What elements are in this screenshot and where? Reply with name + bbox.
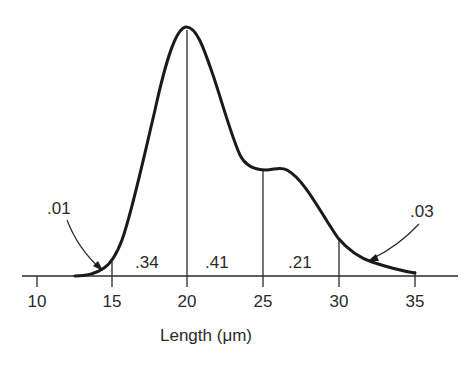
tick-label-30: 30 (319, 293, 359, 310)
x-axis-title: Length (μm) (160, 327, 252, 344)
tick-label-35: 35 (395, 293, 435, 310)
tick-label-20: 20 (167, 293, 207, 310)
tick-label-25: 25 (243, 293, 283, 310)
callout-label-right: .03 (410, 203, 434, 220)
tick-label-15: 15 (92, 293, 132, 310)
x-axis-ticks (37, 30, 415, 287)
callout-arrow-left (67, 220, 100, 268)
distribution-curve (75, 27, 415, 276)
region-label-25-30: .21 (288, 254, 312, 271)
callout-label-left: .01 (47, 200, 71, 217)
tick-label-10: 10 (17, 293, 57, 310)
arrowhead-right-icon (368, 254, 379, 261)
region-label-20-25: .41 (205, 254, 229, 271)
region-label-15-20: .34 (135, 254, 159, 271)
callout-arrow-right (372, 224, 419, 259)
distribution-chart (0, 0, 474, 369)
